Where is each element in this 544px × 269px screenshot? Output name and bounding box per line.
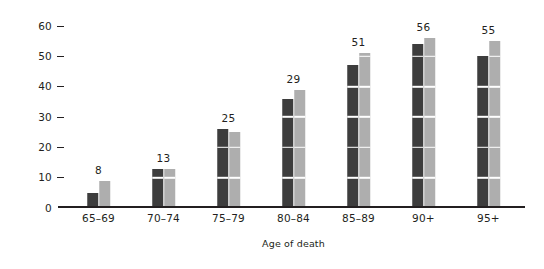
gridline bbox=[229, 177, 240, 179]
gridline bbox=[412, 116, 423, 118]
gridline bbox=[359, 86, 370, 88]
bar-gridline-overlay bbox=[294, 90, 305, 208]
y-axis-tick-label: 60 bbox=[38, 21, 52, 32]
bar-gridline-overlay bbox=[152, 169, 163, 208]
bar-value-label: 25 bbox=[222, 112, 236, 124]
gridline bbox=[359, 147, 370, 149]
bar-pair bbox=[282, 20, 306, 208]
bar-pair bbox=[477, 20, 501, 208]
gridline bbox=[152, 177, 163, 179]
gridline bbox=[282, 177, 293, 179]
gridline bbox=[489, 177, 500, 179]
bar[interactable] bbox=[359, 53, 370, 208]
y-axis-tick-mark bbox=[57, 26, 64, 27]
x-axis-title: Age of death bbox=[66, 238, 521, 249]
bar[interactable] bbox=[424, 38, 435, 208]
bar[interactable] bbox=[229, 132, 240, 208]
bar[interactable] bbox=[164, 169, 175, 208]
bar-group: 29 bbox=[261, 20, 326, 208]
gridline bbox=[217, 177, 228, 179]
bar[interactable] bbox=[99, 181, 110, 208]
gridline bbox=[412, 56, 423, 58]
bar[interactable] bbox=[347, 65, 358, 208]
y-axis-tick-mark bbox=[57, 177, 64, 178]
bar[interactable] bbox=[412, 44, 423, 208]
bar-value-label: 56 bbox=[417, 21, 431, 33]
y-axis-tick-mark bbox=[57, 56, 64, 57]
gridline bbox=[282, 147, 293, 149]
gridline bbox=[164, 177, 175, 179]
gridline bbox=[347, 177, 358, 179]
bar-gridline-overlay bbox=[99, 181, 110, 208]
y-axis-tick-label: 20 bbox=[38, 142, 52, 153]
bar-value-label: 55 bbox=[482, 24, 496, 36]
bar-gridline-overlay bbox=[229, 132, 240, 208]
bar-group: 8 bbox=[66, 20, 131, 208]
bar[interactable] bbox=[217, 129, 228, 208]
x-axis-tick-label: 90+ bbox=[391, 212, 456, 224]
gridline bbox=[489, 56, 500, 58]
bar-value-label: 51 bbox=[352, 36, 366, 48]
bar-group: 55 bbox=[456, 20, 521, 208]
gridline bbox=[424, 86, 435, 88]
gridline bbox=[282, 116, 293, 118]
gridline bbox=[477, 86, 488, 88]
y-axis-tick-mark bbox=[57, 86, 64, 87]
bar-group: 25 bbox=[196, 20, 261, 208]
y-axis-tick-label: 40 bbox=[38, 81, 52, 92]
x-axis-tick-label: 80–84 bbox=[261, 212, 326, 224]
gridline bbox=[477, 116, 488, 118]
gridline bbox=[412, 86, 423, 88]
gridline bbox=[294, 116, 305, 118]
bar-gridline-overlay bbox=[412, 44, 423, 208]
x-axis-tick-labels: 65–6970–7475–7980–8485–8990+95+ bbox=[66, 212, 521, 224]
bar-groups: 8132529515655 bbox=[66, 20, 521, 208]
bar-pair bbox=[87, 20, 111, 208]
gridline bbox=[217, 147, 228, 149]
x-axis-tick-label: 75–79 bbox=[196, 212, 261, 224]
x-axis-line bbox=[58, 206, 525, 208]
bar-chart: Proportion in % 0102030405060 8132529515… bbox=[0, 0, 544, 269]
bar-gridline-overlay bbox=[164, 169, 175, 208]
y-axis-title: Proportion in % bbox=[0, 0, 22, 269]
gridline bbox=[477, 177, 488, 179]
gridline bbox=[347, 147, 358, 149]
bar-pair bbox=[152, 20, 176, 208]
bar-gridline-overlay bbox=[489, 41, 500, 208]
plot-area: 0102030405060 8132529515655 bbox=[66, 20, 521, 208]
y-axis-tick-mark bbox=[57, 117, 64, 118]
bar-gridline-overlay bbox=[282, 99, 293, 208]
bar[interactable] bbox=[294, 90, 305, 208]
bar-group: 13 bbox=[131, 20, 196, 208]
gridline bbox=[489, 86, 500, 88]
gridline bbox=[359, 177, 370, 179]
y-axis-tick-label: 50 bbox=[38, 51, 52, 62]
gridline bbox=[424, 177, 435, 179]
bar-gridline-overlay bbox=[424, 38, 435, 208]
gridline bbox=[359, 116, 370, 118]
gridline bbox=[347, 116, 358, 118]
bar-gridline-overlay bbox=[477, 56, 488, 208]
gridline bbox=[229, 147, 240, 149]
gridline bbox=[489, 116, 500, 118]
bar-group: 56 bbox=[391, 20, 456, 208]
bar-value-label: 29 bbox=[287, 73, 301, 85]
bar-gridline-overlay bbox=[359, 53, 370, 208]
x-axis-tick-label: 65–69 bbox=[66, 212, 131, 224]
gridline bbox=[294, 147, 305, 149]
gridline bbox=[412, 177, 423, 179]
x-axis-tick-label: 95+ bbox=[456, 212, 521, 224]
bar-gridline-overlay bbox=[217, 129, 228, 208]
gridline bbox=[424, 147, 435, 149]
bar[interactable] bbox=[489, 41, 500, 208]
y-axis-title-text: Proportion in % bbox=[0, 97, 46, 172]
bar[interactable] bbox=[282, 99, 293, 208]
gridline bbox=[412, 147, 423, 149]
bar[interactable] bbox=[477, 56, 488, 208]
bar[interactable] bbox=[152, 169, 163, 208]
y-axis-tick-label: 0 bbox=[45, 203, 52, 214]
gridline bbox=[489, 147, 500, 149]
bar-group: 51 bbox=[326, 20, 391, 208]
bar-value-label: 8 bbox=[95, 164, 102, 176]
bar-pair bbox=[412, 20, 436, 208]
